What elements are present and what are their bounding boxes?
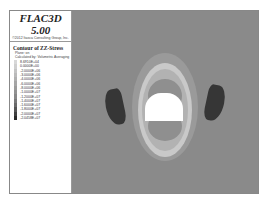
right-high-stress-zone [202, 84, 227, 123]
plot-window: FLAC3D 5.00 ©2012 Itasca Consulting Grou… [9, 10, 259, 194]
legend-entries: 8.6910E+040.0000E+00-2.0000E+06-3.0000E+… [14, 60, 71, 120]
left-high-stress-zone [102, 88, 127, 127]
calculated-by-label: Calculated by: Volumetric Averaging [15, 55, 71, 59]
contour-plot[interactable] [72, 11, 258, 193]
app-title: FLAC3D 5.00 [10, 12, 71, 36]
company-label: ©2012 Itasca Consulting Group, Inc. [10, 36, 71, 42]
tunnel-opening [145, 93, 183, 121]
legend-panel: FLAC3D 5.00 ©2012 Itasca Consulting Grou… [10, 11, 72, 193]
legend-swatch [14, 116, 17, 120]
legend-value: -2.0458E+07 [20, 116, 40, 120]
legend-entry: -2.0458E+07 [14, 116, 71, 120]
